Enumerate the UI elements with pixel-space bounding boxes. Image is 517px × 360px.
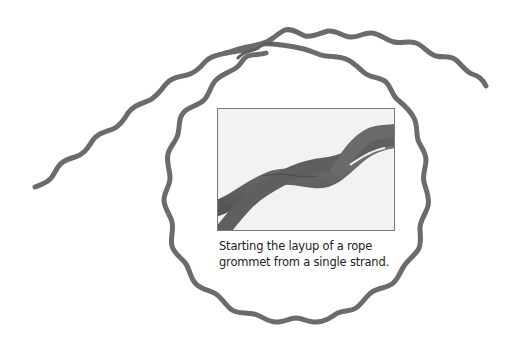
figure-caption: Starting the layup of a rope grommet fro… xyxy=(219,238,409,270)
caption-line-2: grommet from a single strand. xyxy=(219,254,409,270)
inset-photo xyxy=(210,109,400,237)
caption-line-1: Starting the layup of a rope xyxy=(219,238,409,254)
rope-grommet-illustration xyxy=(0,0,517,360)
